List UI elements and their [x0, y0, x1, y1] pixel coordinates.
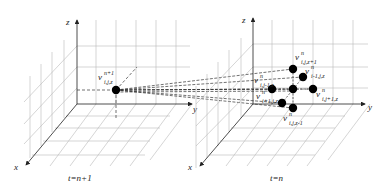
label-top: v n i,j,z+1	[295, 50, 317, 65]
svg-text:n: n	[301, 50, 304, 56]
svg-text:v: v	[305, 66, 309, 76]
svg-text:n: n	[260, 73, 263, 79]
svg-text:n+1: n+1	[104, 70, 114, 76]
left-axes	[26, 20, 192, 165]
svg-text:i,j,z-1: i,j,z-1	[289, 120, 303, 126]
svg-text:n: n	[262, 89, 265, 95]
y-axis-label: y	[367, 102, 372, 112]
svg-text:v: v	[98, 72, 102, 82]
svg-text:v: v	[295, 52, 299, 62]
z-axis-label: z	[241, 15, 246, 25]
x-axis-label: x	[13, 162, 18, 172]
svg-text:i-1,j,z: i-1,j,z	[311, 73, 325, 79]
right-caption: t=n	[270, 173, 284, 183]
node-center	[289, 85, 297, 93]
svg-text:n: n	[289, 111, 292, 117]
svg-text:n: n	[322, 87, 325, 93]
left-caption: t=n+1	[68, 173, 92, 183]
right-grid	[196, 20, 370, 168]
right-panel: z y x v n i,j,z+1 v n i-1,j,z v n	[187, 15, 372, 183]
svg-text:v: v	[256, 91, 260, 101]
label-back: v n i-1,j,z	[305, 64, 325, 79]
svg-text:i,j,z+1: i,j,z+1	[301, 59, 317, 65]
left-grid	[24, 20, 192, 166]
svg-text:v: v	[283, 113, 287, 123]
left-node-label: v n+1 i,j,z	[98, 70, 114, 85]
svg-text:v: v	[316, 89, 320, 99]
label-right: v n i,j+1,z	[316, 87, 338, 102]
svg-text:i,j+1,z: i,j+1,z	[322, 96, 338, 102]
x-axis-label: x	[187, 162, 192, 172]
svg-text:i,j-1,z: i,j-1,z	[260, 82, 274, 88]
node-top	[289, 65, 297, 73]
svg-text:n: n	[311, 64, 314, 70]
node-v-n1-ijz	[112, 86, 120, 94]
svg-text:v: v	[254, 75, 258, 85]
interpolation-diagram: z y x v n+1 i,j,z t=n+1	[0, 0, 386, 194]
z-axis-label: z	[65, 17, 70, 27]
label-left: v n i,j-1,z	[254, 73, 274, 88]
svg-text:i,j,z: i,j,z	[104, 79, 113, 85]
node-front	[278, 99, 286, 107]
svg-text:i+1,j,z: i+1,j,z	[262, 98, 278, 104]
label-bottom: v n i,j,z-1	[283, 111, 303, 126]
x-axis	[26, 104, 77, 165]
